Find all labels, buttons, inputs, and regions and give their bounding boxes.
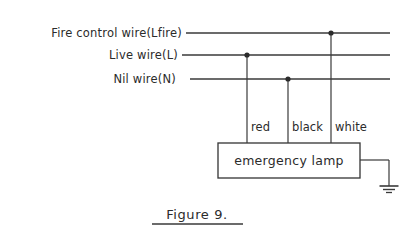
figure-caption-group: Figure 9. xyxy=(152,207,243,224)
wiring-diagram: Fire control wire(Lfire) Live wire(L) Ni… xyxy=(0,0,414,234)
wire-color-label-group: red black white xyxy=(251,120,367,134)
bus-wire-label-nil: Nil wire(N) xyxy=(113,72,176,86)
emergency-lamp-label: emergency lamp xyxy=(234,153,344,168)
earth-ground-icon xyxy=(380,186,399,193)
figure-caption-text: Figure 9. xyxy=(166,207,228,222)
wire-color-label-black: black xyxy=(292,120,323,134)
junction-dot-group xyxy=(244,30,333,81)
ground-connection-group xyxy=(360,160,399,193)
bus-wire-label-group: Fire control wire(Lfire) Live wire(L) Ni… xyxy=(51,26,182,86)
junction-dot-nil xyxy=(285,76,290,81)
emergency-lamp-component: emergency lamp xyxy=(218,143,360,178)
bus-wire-group xyxy=(182,33,390,79)
bus-wire-label-fire-control: Fire control wire(Lfire) xyxy=(51,26,182,40)
junction-dot-live xyxy=(244,52,249,57)
bus-wire-label-live: Live wire(L) xyxy=(109,48,178,62)
diagram-canvas: Fire control wire(Lfire) Live wire(L) Ni… xyxy=(0,0,414,234)
wire-color-label-white: white xyxy=(335,120,367,134)
junction-dot-fire-control xyxy=(328,30,333,35)
wire-color-label-red: red xyxy=(251,120,270,134)
